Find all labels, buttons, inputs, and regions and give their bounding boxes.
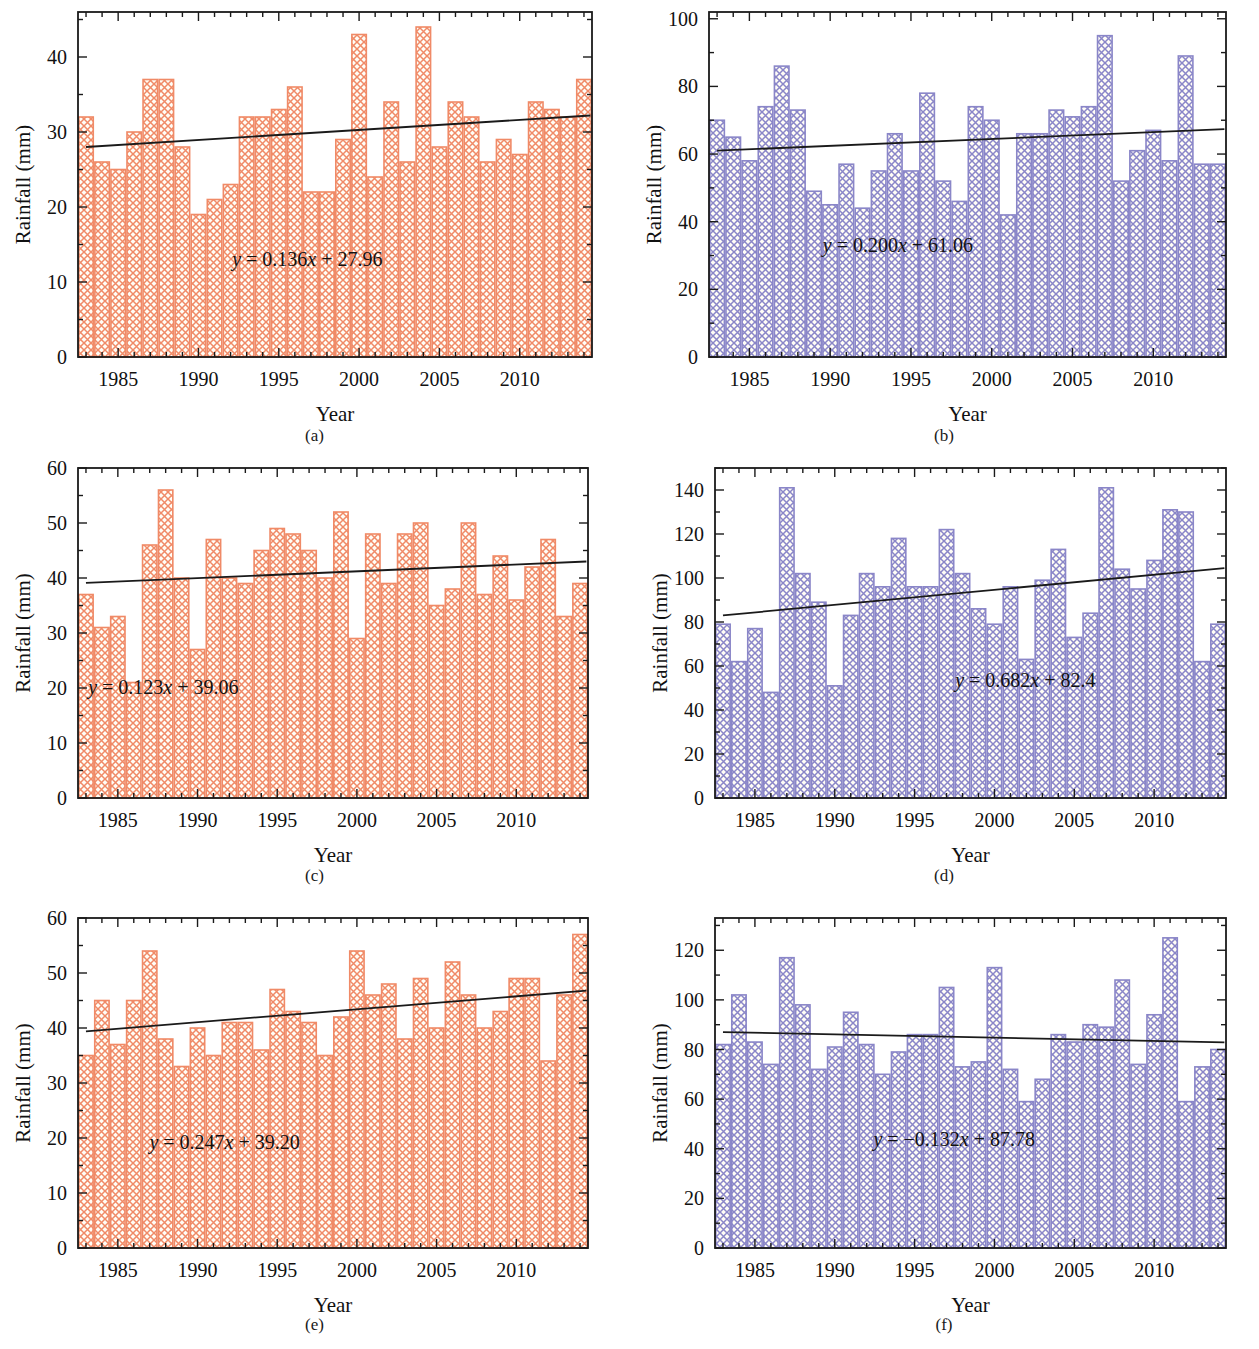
bar: [1162, 161, 1177, 357]
bar: [557, 995, 571, 1248]
panel-d: 0204060801001201401985199019952000200520…: [629, 450, 1259, 890]
bar: [382, 584, 396, 799]
bar: [541, 540, 555, 799]
panel-b: 020406080100198519901995200020052010Year…: [629, 0, 1259, 450]
bar: [891, 1052, 905, 1248]
svg-text:1990: 1990: [178, 1259, 218, 1281]
bars-group: [710, 36, 1225, 357]
svg-text:1985: 1985: [729, 368, 769, 390]
bar: [448, 102, 462, 357]
svg-text:1985: 1985: [735, 809, 775, 831]
bar: [780, 958, 794, 1248]
bar: [382, 984, 396, 1248]
bar: [939, 530, 953, 798]
svg-text:40: 40: [684, 699, 704, 721]
bar: [939, 987, 953, 1248]
bar: [496, 140, 510, 358]
y-tick-labels: 020406080100120: [674, 939, 704, 1259]
svg-text:20: 20: [47, 196, 67, 218]
svg-text:1990: 1990: [815, 1259, 855, 1281]
svg-text:1990: 1990: [178, 368, 218, 390]
svg-text:0: 0: [57, 346, 67, 368]
svg-text:30: 30: [47, 622, 67, 644]
bar: [175, 147, 189, 357]
bar: [1033, 134, 1048, 357]
bar: [860, 1045, 874, 1248]
bar: [936, 181, 951, 357]
svg-text:140: 140: [674, 479, 704, 501]
y-tick-labels: 0102030405060: [47, 457, 67, 809]
bar: [971, 609, 985, 798]
bar: [461, 995, 475, 1248]
bar: [952, 201, 967, 357]
bar: [920, 93, 935, 357]
panel-b-plot: 020406080100198519901995200020052010Year…: [629, 0, 1259, 450]
bar: [1051, 1035, 1065, 1248]
svg-text:2005: 2005: [417, 1259, 457, 1281]
bar: [286, 1012, 300, 1249]
bar: [512, 155, 526, 358]
panel-c-plot: 0102030405060198519901995200020052010Yea…: [0, 450, 629, 890]
bar: [143, 545, 157, 798]
svg-text:80: 80: [684, 1039, 704, 1061]
bar: [366, 995, 380, 1248]
svg-text:10: 10: [47, 271, 67, 293]
x-axis-title: Year: [951, 843, 990, 867]
bar: [758, 107, 773, 357]
bar: [238, 584, 252, 799]
bar: [79, 117, 93, 357]
svg-text:40: 40: [684, 1138, 704, 1160]
bar: [1115, 569, 1129, 798]
x-axis-title: Year: [316, 402, 355, 426]
trend-equation: y = 0.123x + 39.06: [86, 676, 238, 699]
bar: [1114, 181, 1129, 357]
panel-e: 0102030405060198519901995200020052010Yea…: [0, 890, 629, 1349]
bar: [987, 624, 1001, 798]
svg-text:20: 20: [678, 278, 698, 300]
bar: [480, 162, 494, 357]
bar: [573, 584, 587, 799]
svg-text:1995: 1995: [257, 809, 297, 831]
bar: [923, 587, 937, 798]
svg-text:2010: 2010: [1133, 368, 1173, 390]
svg-text:100: 100: [668, 8, 698, 30]
svg-text:1985: 1985: [735, 1259, 775, 1281]
svg-text:0: 0: [694, 1237, 704, 1259]
svg-text:120: 120: [674, 939, 704, 961]
svg-text:2005: 2005: [1054, 809, 1094, 831]
svg-text:1995: 1995: [895, 809, 935, 831]
svg-text:2000: 2000: [339, 368, 379, 390]
y-axis-title: Rainfall (mm): [642, 125, 666, 245]
svg-text:10: 10: [47, 732, 67, 754]
bar: [254, 551, 268, 799]
bar: [1019, 1102, 1033, 1248]
svg-text:20: 20: [684, 743, 704, 765]
panel-grid: 010203040198519901995200020052010YearRai…: [0, 0, 1259, 1349]
bar: [891, 538, 905, 798]
bar: [413, 523, 427, 798]
svg-text:2010: 2010: [500, 368, 540, 390]
x-tick-labels: 198519901995200020052010: [735, 809, 1174, 831]
svg-text:10: 10: [47, 1182, 67, 1204]
bar: [477, 595, 491, 799]
bar: [302, 551, 316, 799]
bar: [1211, 164, 1226, 357]
x-tick-labels: 198519901995200020052010: [98, 809, 536, 831]
bar: [823, 205, 838, 357]
bar: [461, 523, 475, 798]
svg-text:30: 30: [47, 121, 67, 143]
bar: [255, 117, 269, 357]
svg-text:0: 0: [688, 346, 698, 368]
svg-text:0: 0: [57, 787, 67, 809]
y-axis-title: Rainfall (mm): [11, 573, 35, 693]
svg-text:1990: 1990: [810, 368, 850, 390]
bar: [1065, 117, 1080, 357]
panel-d-caption: (d): [629, 866, 1259, 886]
svg-text:2010: 2010: [496, 809, 536, 831]
bar: [1049, 110, 1064, 357]
y-tick-labels: 010203040: [47, 46, 67, 368]
y-tick-labels: 020406080100: [668, 8, 698, 368]
bar: [971, 1062, 985, 1248]
bar: [541, 1061, 555, 1248]
panel-f-plot: 020406080100120198519901995200020052010Y…: [629, 890, 1259, 1349]
